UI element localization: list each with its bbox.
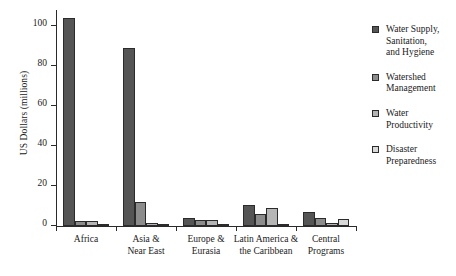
bar [98, 224, 110, 226]
bar [338, 219, 350, 226]
y-tick-label: 20 [38, 178, 48, 188]
legend-label: Water [386, 108, 456, 120]
legend-swatch-icon [372, 110, 379, 117]
y-tick: 80 [51, 65, 56, 66]
legend-swatch-icon [372, 26, 379, 33]
bar [195, 220, 207, 226]
bar [63, 18, 75, 226]
bar [218, 224, 230, 226]
y-axis-title: US Dollars (millions) [19, 43, 29, 183]
x-tick [116, 226, 117, 231]
y-tick-label: 100 [33, 18, 47, 28]
y-tick-label: 80 [38, 58, 48, 68]
bar [135, 202, 147, 226]
bar [158, 224, 170, 226]
x-tick [296, 226, 297, 231]
bar [146, 223, 158, 226]
bar [86, 221, 98, 226]
legend-item: WaterProductivity [372, 108, 456, 131]
bar [183, 218, 195, 226]
x-tick [56, 226, 57, 231]
y-tick-label: 40 [38, 138, 48, 148]
legend-label: and Hygiene [386, 47, 456, 59]
bar-chart: US Dollars (millions) 020406080100 Afric… [0, 0, 456, 276]
bar [315, 218, 327, 226]
category-label-line: Central [278, 234, 374, 246]
category-label: CentralPrograms [278, 234, 374, 257]
bar [278, 224, 290, 226]
legend-label: Sanitation, [386, 36, 456, 48]
legend-swatch-icon [372, 146, 379, 153]
bar [123, 48, 135, 226]
bar [303, 212, 315, 226]
legend-item: WatershedManagement [372, 72, 456, 95]
y-tick-label: 60 [38, 98, 48, 108]
y-tick: 100 [51, 25, 56, 26]
category-label-line: Programs [278, 246, 374, 258]
bar [75, 221, 87, 226]
x-tick [236, 226, 237, 231]
legend-label: Productivity [386, 120, 456, 132]
plot-area: 020406080100 AfricaAsia &Near EastEurope… [56, 10, 356, 226]
chart-legend: Water Supply,Sanitation,and HygieneWater… [372, 24, 456, 180]
y-tick: 20 [51, 185, 56, 186]
bar [266, 208, 278, 226]
legend-swatch-icon [372, 74, 379, 81]
legend-item: DisasterPreparedness [372, 144, 456, 167]
legend-item: Water Supply,Sanitation,and Hygiene [372, 24, 456, 59]
legend-label: Management [386, 83, 456, 95]
y-tick: 60 [51, 105, 56, 106]
x-tick [356, 226, 357, 231]
bar [326, 223, 338, 226]
legend-label: Preparedness [386, 156, 456, 168]
legend-label: Watershed [386, 72, 456, 84]
legend-label: Disaster [386, 144, 456, 156]
bar [255, 214, 267, 226]
y-tick-label: 0 [42, 218, 47, 228]
legend-label: Water Supply, [386, 24, 456, 36]
bar [243, 205, 255, 226]
y-tick: 40 [51, 145, 56, 146]
bar [206, 220, 218, 226]
x-tick [176, 226, 177, 231]
x-axis-line [56, 226, 356, 227]
y-axis-line [56, 10, 57, 226]
